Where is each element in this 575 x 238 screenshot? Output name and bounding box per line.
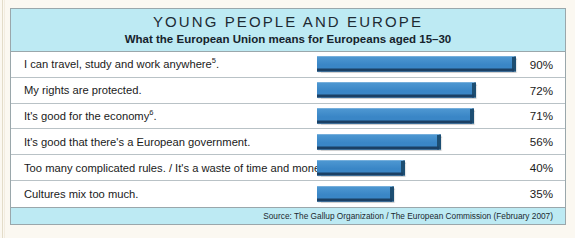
bar (317, 134, 441, 149)
table-row: I can travel, study and work anywhere5.9… (11, 52, 565, 78)
row-label: My rights are protected. (11, 84, 317, 96)
bar (317, 83, 476, 98)
row-label: It's good that there's a European govern… (11, 136, 317, 148)
row-label: It's good for the economy6. (11, 110, 317, 122)
row-value: 56% (509, 135, 565, 148)
footnote-marker: 6 (149, 110, 153, 117)
bar-track (317, 181, 509, 207)
bar-track (317, 155, 509, 180)
row-label: Too many complicated rules. / It's a was… (11, 162, 317, 174)
row-value: 72% (509, 84, 565, 97)
bar (317, 186, 394, 201)
bar-chart-rows: I can travel, study and work anywhere5.9… (11, 52, 565, 207)
table-row: Cultures mix too much.35% (11, 181, 565, 207)
bar (317, 108, 474, 123)
bar (317, 57, 516, 72)
bar-track (317, 52, 509, 77)
row-label: I can travel, study and work anywhere5. (11, 58, 317, 70)
row-value: 90% (509, 58, 565, 71)
figure-header: YOUNG PEOPLE AND EUROPE What the Europea… (11, 9, 565, 52)
table-row: It's good that there's a European govern… (11, 129, 565, 155)
table-row: Too many complicated rules. / It's a was… (11, 155, 565, 181)
row-value: 40% (509, 161, 565, 174)
page-gutter-line (2, 0, 3, 238)
row-value: 71% (509, 109, 565, 122)
footnote-marker: 5 (212, 58, 216, 65)
figure-subtitle: What the European Union means for Europe… (11, 31, 565, 47)
bar (317, 160, 405, 175)
row-label: Cultures mix too much. (11, 188, 317, 200)
figure-title: YOUNG PEOPLE AND EUROPE (11, 12, 565, 31)
table-row: My rights are protected.72% (11, 78, 565, 104)
page-gutter-line-secondary (4, 0, 5, 238)
bar-track (317, 78, 509, 103)
infographic-panel: YOUNG PEOPLE AND EUROPE What the Europea… (10, 8, 566, 225)
figure-source: Source: The Gallup Organization / The Eu… (11, 207, 565, 224)
table-row: It's good for the economy6.71% (11, 104, 565, 130)
row-value: 35% (509, 187, 565, 200)
bar-track (317, 104, 509, 129)
bar-track (317, 129, 509, 154)
